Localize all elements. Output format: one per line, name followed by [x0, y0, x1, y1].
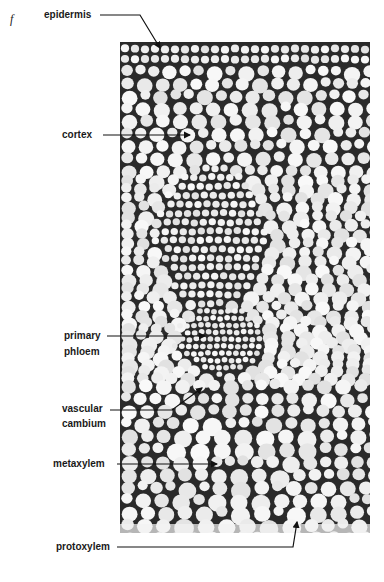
image-edge	[120, 524, 370, 533]
cell	[135, 65, 145, 75]
cell	[271, 77, 284, 89]
cell	[271, 405, 284, 417]
cell	[252, 228, 259, 235]
cell	[206, 103, 221, 117]
cell	[131, 45, 139, 53]
cell	[136, 330, 146, 340]
cell	[185, 330, 191, 335]
cell	[198, 300, 205, 307]
cell	[257, 336, 263, 341]
cell	[211, 273, 218, 280]
cell	[235, 173, 242, 180]
cell	[300, 165, 311, 176]
cell	[242, 344, 248, 349]
cell	[320, 456, 331, 467]
cell	[206, 290, 213, 297]
cell	[233, 323, 239, 328]
cell	[216, 371, 222, 376]
cell	[235, 344, 241, 349]
cell	[351, 56, 359, 64]
cell	[263, 140, 274, 151]
cell	[189, 228, 196, 235]
cell	[224, 291, 231, 298]
cell	[193, 344, 199, 349]
cell	[305, 482, 318, 494]
cell	[333, 417, 348, 432]
cell	[329, 256, 339, 265]
cell	[166, 210, 173, 217]
cell	[269, 379, 280, 389]
cell	[254, 506, 270, 522]
cell	[243, 264, 250, 271]
cell	[279, 443, 295, 458]
cell	[230, 91, 243, 103]
cell	[218, 309, 224, 314]
cell	[195, 468, 208, 481]
cell	[151, 45, 159, 53]
cell	[170, 236, 177, 243]
cell	[121, 493, 132, 504]
cell	[180, 228, 187, 235]
cell	[241, 329, 247, 334]
cell	[184, 210, 191, 217]
cell	[266, 456, 279, 468]
cell	[134, 392, 147, 405]
cell	[271, 56, 279, 64]
cell	[191, 115, 207, 130]
cell	[311, 56, 319, 64]
cell	[223, 380, 239, 395]
cell	[215, 236, 222, 243]
cell	[229, 273, 236, 280]
cell	[225, 308, 231, 313]
cell	[276, 139, 286, 149]
cell	[241, 55, 249, 63]
cell	[190, 78, 202, 89]
cell	[225, 263, 232, 270]
cell	[152, 237, 159, 244]
cell	[219, 140, 232, 152]
cell	[332, 406, 345, 418]
cell	[167, 128, 177, 138]
cell	[190, 102, 203, 114]
cell	[232, 308, 238, 313]
cell	[271, 45, 279, 53]
cell	[122, 115, 138, 130]
cell	[350, 506, 364, 519]
cell	[197, 183, 204, 190]
cell	[121, 77, 133, 89]
cell	[286, 392, 298, 403]
cell	[301, 55, 309, 63]
cell	[139, 140, 154, 154]
cell	[281, 46, 289, 54]
cell	[252, 469, 267, 483]
cell	[193, 273, 200, 280]
cell	[351, 417, 365, 430]
cell	[191, 351, 197, 356]
cell	[234, 139, 247, 151]
cell	[202, 165, 209, 172]
cell	[245, 91, 259, 105]
cell	[184, 351, 190, 356]
cell	[291, 45, 299, 53]
cell	[178, 468, 192, 481]
cell	[165, 191, 172, 198]
cell	[226, 174, 233, 181]
cell	[168, 153, 183, 167]
cell	[237, 455, 248, 465]
cell	[198, 264, 205, 271]
cell	[254, 351, 260, 356]
cell	[220, 329, 226, 334]
cell	[234, 227, 241, 234]
cell	[141, 430, 154, 442]
cell	[303, 457, 317, 470]
cell	[211, 209, 218, 216]
cell	[216, 227, 223, 234]
cell	[154, 494, 169, 508]
cell	[206, 236, 213, 243]
cell	[337, 184, 347, 194]
cell	[185, 201, 192, 208]
cell	[349, 493, 359, 503]
cell	[198, 128, 209, 138]
cell	[228, 344, 234, 349]
cell	[217, 174, 224, 181]
